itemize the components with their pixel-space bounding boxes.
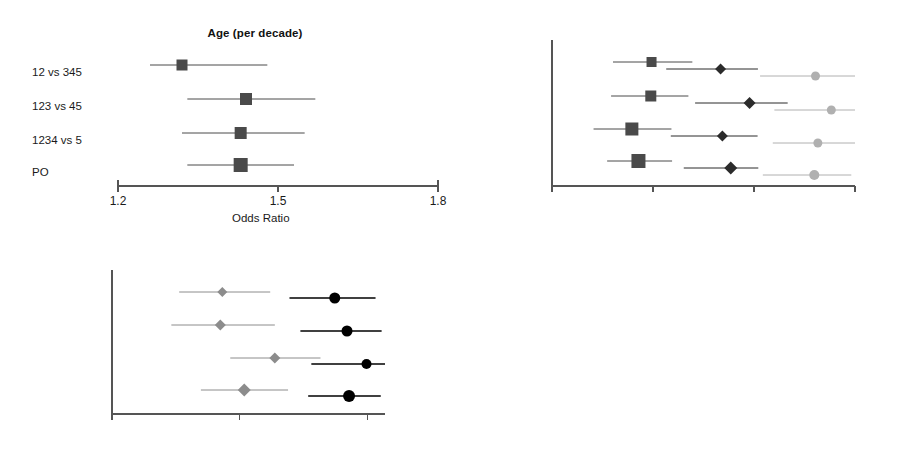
- panel-pupil-series-0: [171, 287, 320, 397]
- estimate-marker-circle: [341, 326, 352, 337]
- panel-pupil-canvas: [0, 0, 901, 475]
- estimate-marker-circle: [329, 293, 340, 304]
- estimate-marker-diamond: [238, 384, 251, 397]
- panel-pupil: 124Odds RatioPupil=0 (ref)1 unresponsive…: [0, 240, 470, 475]
- panel-pupil-series-1: [289, 293, 385, 403]
- estimate-marker-diamond: [269, 353, 280, 364]
- estimate-marker-diamond: [215, 320, 226, 331]
- estimate-marker-diamond: [217, 287, 227, 297]
- estimate-marker-circle: [362, 359, 372, 369]
- forest-plot-figure: 1.21.51.8Odds RatioAge (per decade)12 vs…: [0, 0, 901, 475]
- estimate-marker-circle: [343, 390, 355, 402]
